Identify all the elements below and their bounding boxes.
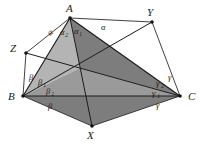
angle-alpha-2-subscript: 2 <box>65 32 68 38</box>
angle-alpha-outer-right: α <box>101 22 106 32</box>
angle-beta-2-base: β <box>45 86 51 96</box>
edge-B-Z <box>23 53 26 96</box>
vertex-dot-b <box>21 94 25 98</box>
geometry-canvas: αα2α1αββ1β2βγγ2γ1γ ABCXYZ <box>0 0 210 155</box>
vertex-label-x: X <box>86 129 95 141</box>
angle-beta-1-base: β <box>37 77 43 87</box>
vertex-label-c: C <box>188 90 196 102</box>
angle-beta-bottom-base: β <box>47 101 53 111</box>
angle-alpha-1-subscript: 1 <box>79 31 82 37</box>
angle-beta-2-subscript: 2 <box>51 91 54 97</box>
angle-beta-outer: β <box>28 72 34 82</box>
geometry-figure: αα2α1αββ1β2βγγ2γ1γ ABCXYZ <box>0 0 210 155</box>
vertex-dot-c <box>178 94 182 98</box>
vertex-label-b: B <box>8 90 15 102</box>
vertex-dot-y <box>150 20 154 24</box>
edge-A-Y <box>70 18 152 22</box>
vertex-label-y: Y <box>147 6 155 18</box>
vertex-label-a: A <box>65 2 73 14</box>
angle-beta-bottom: β <box>47 101 53 111</box>
angle-alpha-outer-left: α <box>45 27 55 38</box>
angle-gamma-1-subscript: 1 <box>157 93 160 99</box>
vertex-dot-z <box>24 51 28 55</box>
vertex-dot-a <box>68 16 72 20</box>
angle-alpha-outer-left-base: α <box>45 27 55 38</box>
angle-beta-outer-base: β <box>28 72 34 82</box>
angle-alpha-outer-right-base: α <box>101 22 106 32</box>
angle-gamma-2-subscript: 2 <box>161 83 164 89</box>
vertex-dot-x <box>90 124 94 128</box>
vertex-label-z: Z <box>10 42 17 54</box>
